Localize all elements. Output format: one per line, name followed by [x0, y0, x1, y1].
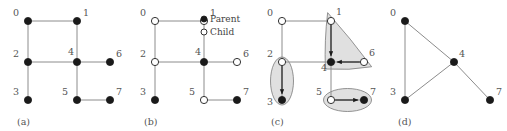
node-label-5: 5 — [189, 86, 195, 97]
node-label-7: 7 — [496, 86, 502, 97]
node-7 — [106, 96, 113, 103]
node-5 — [327, 96, 334, 103]
node-5 — [200, 96, 207, 103]
edge-4-7 — [454, 62, 490, 100]
legend-label-child: Child — [210, 27, 234, 37]
node-6 — [233, 58, 240, 65]
node-3 — [151, 96, 158, 103]
node-label-7: 7 — [243, 86, 249, 97]
node-label-1: 1 — [83, 7, 89, 18]
node-label-2: 2 — [267, 48, 273, 59]
node-label-2: 2 — [140, 48, 146, 59]
node-label-3: 3 — [13, 86, 19, 97]
node-label-4: 4 — [321, 62, 327, 73]
node-7 — [486, 96, 493, 103]
panel-b: 01246357ParentChild(b) — [127, 0, 254, 131]
node-4 — [200, 58, 207, 65]
node-2 — [24, 58, 31, 65]
panel-d: 0437(d) — [381, 0, 507, 131]
node-4 — [73, 58, 80, 65]
node-4 — [450, 58, 457, 65]
node-label-0: 0 — [13, 7, 19, 18]
node-label-0: 0 — [390, 7, 396, 18]
node-0 — [278, 17, 285, 24]
node-label-5: 5 — [316, 86, 322, 97]
panel-caption-a: (a) — [0, 116, 127, 127]
node-label-3: 3 — [267, 96, 273, 107]
node-label-2: 2 — [13, 48, 19, 59]
node-label-0: 0 — [140, 7, 146, 18]
node-label-7: 7 — [116, 86, 122, 97]
panel-caption-d: (d) — [381, 116, 507, 127]
node-6 — [360, 58, 367, 65]
node-3 — [24, 96, 31, 103]
node-3 — [278, 96, 285, 103]
edge-0-4 — [405, 21, 454, 62]
node-2 — [151, 58, 158, 65]
node-label-3: 3 — [390, 86, 396, 97]
edge-3-4 — [405, 62, 454, 100]
node-1 — [73, 17, 80, 24]
panel-c: 01246357(c) — [254, 0, 381, 131]
node-label-6: 6 — [243, 48, 249, 59]
filled-dot-icon — [201, 16, 207, 22]
node-0 — [24, 17, 31, 24]
node-label-4: 4 — [195, 46, 201, 57]
panel-d-graph: 0437 — [381, 0, 507, 131]
node-label-7: 7 — [370, 86, 376, 97]
panel-caption-b: (b) — [127, 116, 254, 127]
node-label-6: 6 — [116, 48, 122, 59]
node-label-5: 5 — [62, 86, 68, 97]
node-7 — [233, 96, 240, 103]
panel-b-graph: 01246357ParentChild — [127, 0, 254, 131]
node-label-4: 4 — [68, 46, 74, 57]
hollow-dot-icon — [201, 29, 207, 35]
node-4 — [327, 58, 334, 65]
node-0 — [151, 17, 158, 24]
node-label-1: 1 — [336, 6, 342, 17]
panel-caption-c: (c) — [254, 116, 381, 127]
figure-root: 01246357(a)01246357ParentChild(b)0124635… — [0, 0, 507, 131]
node-5 — [73, 96, 80, 103]
node-3 — [401, 96, 408, 103]
node-7 — [360, 96, 367, 103]
node-label-4: 4 — [459, 48, 465, 59]
node-label-3: 3 — [140, 86, 146, 97]
panel-a: 01246357(a) — [0, 0, 127, 131]
panel-a-graph: 01246357 — [0, 0, 127, 131]
panel-c-graph: 01246357 — [254, 0, 381, 131]
node-label-0: 0 — [267, 7, 273, 18]
node-1 — [327, 17, 334, 24]
node-2 — [278, 58, 285, 65]
legend-label-parent: Parent — [210, 14, 240, 24]
node-6 — [106, 58, 113, 65]
node-label-6: 6 — [369, 47, 375, 58]
node-0 — [401, 17, 408, 24]
